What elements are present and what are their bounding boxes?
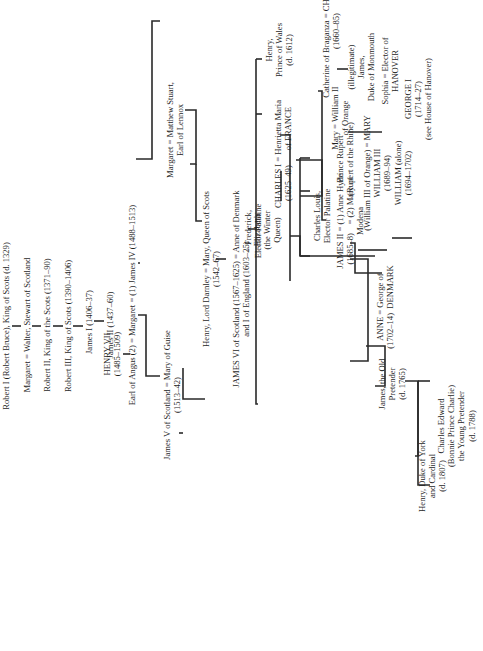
node-line: James I (1406–37) — [84, 290, 94, 354]
node-mary-william-ii: Mary = William II of Orange — [330, 86, 350, 149]
node-robert-i: Robert I (Robert Bruce), King of Scots (… — [1, 242, 11, 410]
node-line: CHARLES I = Henrietta Maria — [273, 100, 283, 208]
node-line: and Cardinal — [427, 440, 437, 512]
node-line: James, the Old — [377, 359, 387, 410]
node-margaret-stuart: Margaret = Matthew Stuart, Earl of Lenno… — [165, 82, 185, 178]
node-line: HENRY VII — [102, 332, 112, 376]
node-james-v: James V of Scotland = Mary of Guise (151… — [162, 330, 182, 460]
node-henry-prince-of-wales: Henry, Prince of Wales (d. 1612) — [264, 23, 295, 77]
node-line: (1542–67) — [211, 191, 221, 347]
node-line: HANOVER — [390, 37, 400, 104]
node-line: (d. 1765) — [397, 359, 407, 410]
node-line: Catherine of Braganza = CHARLES II — [321, 0, 331, 98]
node-line: (1513–42) — [172, 330, 182, 460]
node-line: (d. 1807) — [437, 440, 447, 512]
node-line: (d. 1612) — [284, 23, 294, 77]
node-line: Mary = William II — [330, 86, 340, 149]
node-line: Sophia = Elector of — [380, 37, 390, 104]
node-line: Earl of Lennox — [175, 82, 185, 178]
node-line: (1660–85) — [331, 0, 341, 98]
node-line: ANNE = George of — [375, 265, 385, 349]
node-line: (William III of Orange) = MARY — [362, 115, 372, 230]
node-darnley-mary: Henry, Lord Darnley = Mary, Queen of Sco… — [201, 191, 221, 347]
node-line: Robert I (Robert Bruce), King of Scots (… — [1, 242, 11, 410]
node-line: Pretender — [387, 359, 397, 410]
node-line: Elector Palatine — [322, 189, 332, 244]
node-line: (1702–14) DENMARK — [385, 265, 395, 349]
node-line: (Bonnie Prince Charlie) — [446, 385, 456, 467]
node-line: JAMES II = (1) Anne Hyde — [335, 173, 345, 268]
node-line: James V of Scotland = Mary of Guise — [162, 330, 172, 460]
node-robert-iii: Robert III, King of Scots (1390–1406) — [63, 260, 73, 392]
node-line: (1625–49) of FRANCE — [283, 100, 293, 208]
node-line: Henry, Lord Darnley = Mary, Queen of Sco… — [201, 191, 211, 347]
node-margaret-walter: Margaret = Walter, Stewart of Scotland — [22, 258, 32, 393]
node-line: Robert III, King of Scots (1390–1406) — [63, 260, 73, 392]
node-line: Robert II, King of the Scots (1371–90) — [42, 258, 52, 391]
node-charles-louis: Charles Louis, Elector Palatine — [312, 189, 332, 244]
node-line: WILLIAM III — [373, 115, 383, 230]
node-line: (see House of Hanover) — [423, 58, 433, 140]
node-henry-york: Henry, Duke of York and Cardinal (d. 180… — [417, 440, 448, 512]
node-line: Henry, — [264, 23, 274, 77]
node-line: Margaret = Walter, Stewart of Scotland — [22, 258, 32, 393]
node-line: James, — [356, 33, 366, 101]
node-line: (the Winter — [262, 211, 272, 250]
node-anne: ANNE = George of (1702–14) DENMARK — [375, 265, 395, 349]
node-line: Elector Palatine — [253, 204, 263, 259]
node-line: the Young Pretender — [456, 385, 466, 467]
node-line: Henry, Duke of York — [417, 440, 427, 512]
node-william-mary: (William III of Orange) = MARY WILLIAM I… — [362, 115, 413, 230]
node-line: (1714–27) — [413, 58, 423, 140]
node-line: Duke of Monmouth — [366, 33, 376, 101]
node-line: Charles Louis, — [312, 189, 322, 244]
node-james-ii: JAMES II = (1) Anne Hyde (1685–8) = (2) … — [335, 173, 366, 268]
node-line: = Frederick, — [243, 204, 253, 259]
node-charles-ii: Catherine of Braganza = CHARLES II (1660… — [321, 0, 341, 98]
node-line: (1685–8) = (2) Mary of — [345, 173, 355, 268]
node-robert-ii: Robert II, King of the Scots (1371–90) — [42, 258, 52, 391]
node-monmouth: (illegitimate) James, Duke of Monmouth — [346, 33, 377, 101]
node-old-pretender: James, the Old Pretender (d. 1765) — [377, 359, 408, 410]
node-line: JAMES VI of Scotland (1567–1625) = Anne … — [231, 190, 241, 387]
node-line: (1485–1509) — [112, 332, 122, 376]
node-line: Prince of Wales — [274, 23, 284, 77]
node-line: (1694–1702) — [403, 115, 413, 230]
node-line: WILLIAM (alone) — [393, 115, 403, 230]
node-line: Margaret = Matthew Stuart, — [165, 82, 175, 178]
stuart-family-tree: Robert I (Robert Bruce), King of Scots (… — [0, 0, 483, 651]
node-line: (1689–94) — [383, 115, 393, 230]
node-charles-i: CHARLES I = Henrietta Maria (1625–49) of… — [273, 100, 293, 208]
node-line: Queen) — [272, 211, 282, 250]
node-sophia: Sophia = Elector of HANOVER — [380, 37, 400, 104]
node-frederick: = Frederick, Elector Palatine — [243, 204, 263, 259]
node-margaret-marriages: Earl of Angus (2) = Margaret = (1) James… — [127, 205, 137, 405]
node-line: of Orange — [340, 86, 350, 149]
node-line: Earl of Angus (2) = Margaret = (1) James… — [127, 205, 137, 405]
node-henry-vii: HENRY VII (1485–1509) — [102, 332, 122, 376]
node-james-i: James I (1406–37) — [84, 290, 94, 354]
node-line: (d. 1788) — [466, 385, 476, 467]
